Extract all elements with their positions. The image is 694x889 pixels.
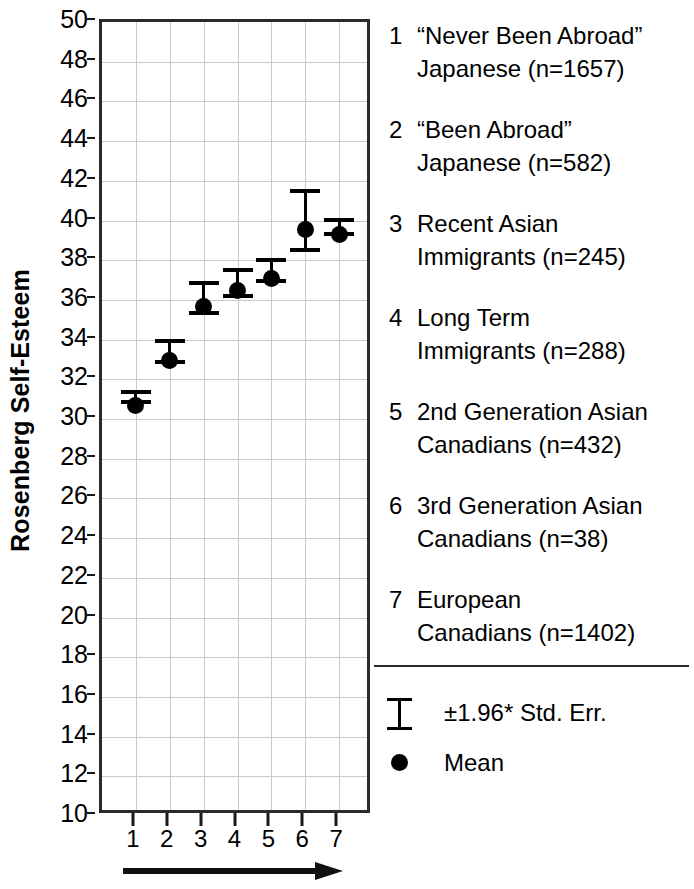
grid-line-horizontal (102, 737, 367, 738)
mean-dot-icon (297, 221, 314, 238)
legend-group-label: Recent Asian Immigrants (n=245) (417, 207, 626, 273)
legend-group-item: 63rd Generation Asian Canadians (n=38) (389, 489, 689, 555)
grid-line-vertical (136, 22, 137, 810)
y-axis-tick-mark (87, 137, 95, 139)
arrow-head (315, 862, 343, 880)
legend-symbol-label: ±1.96* Std. Err. (444, 701, 607, 725)
error-bar-cap-upper (189, 281, 219, 285)
y-axis-tick-mark (87, 574, 95, 576)
grid-line-vertical (271, 22, 272, 810)
mean-dot-icon (374, 740, 444, 786)
chart-figure: Rosenberg Self-Esteem 504846444240383634… (0, 0, 694, 889)
y-axis-tick-label: 16 (60, 681, 88, 706)
legend-group-number: 7 (389, 583, 417, 649)
legend-group-label: Long Term Immigrants (n=288) (417, 301, 626, 367)
x-axis-tick-label: 3 (194, 826, 207, 851)
y-axis-tick-label: 38 (60, 245, 88, 270)
grid-line-horizontal (102, 181, 367, 182)
grid-line-horizontal (102, 657, 367, 658)
y-axis-tick-label: 26 (60, 483, 88, 508)
grid-line-horizontal (102, 379, 367, 380)
y-axis-tick-mark (87, 177, 95, 179)
mean-dot-icon (331, 226, 348, 243)
error-bar-cap-upper (324, 218, 354, 222)
grid-line-vertical (305, 22, 306, 810)
y-axis-tick-mark (87, 97, 95, 99)
y-axis-tick-label: 30 (60, 404, 88, 429)
legend-group-label: 2nd Generation Asian Canadians (n=432) (417, 395, 648, 461)
error-bar-cap-lower (290, 248, 320, 252)
grid-line-horizontal (102, 459, 367, 460)
y-axis-tick-mark (87, 415, 95, 417)
y-axis-tick-mark (87, 733, 95, 735)
legend-symbol-item: Mean (374, 740, 694, 786)
y-axis-tick-mark (87, 58, 95, 60)
plot-area (99, 19, 370, 813)
y-axis-tick-mark (87, 534, 95, 536)
legend-group-item: 52nd Generation Asian Canadians (n=432) (389, 395, 689, 461)
grid-line-horizontal (102, 578, 367, 579)
y-axis-tick-label: 42 (60, 165, 88, 190)
grid-line-horizontal (102, 101, 367, 102)
grid-line-horizontal (102, 62, 367, 63)
x-axis-arrow-icon (123, 862, 343, 880)
y-axis-tick-labels: 5048464442403836343230282624222018161412… (38, 19, 94, 813)
y-axis-tick-label: 12 (60, 761, 88, 786)
y-axis-tick-label: 22 (60, 562, 88, 587)
legend-group-item: 3Recent Asian Immigrants (n=245) (389, 207, 689, 273)
y-axis-tick-label: 18 (60, 642, 88, 667)
y-axis-title-label: Rosenberg Self-Esteem (6, 269, 35, 552)
legend-group-number: 2 (389, 113, 417, 179)
mean-dot-icon (229, 282, 246, 299)
mean-dot-icon (161, 352, 178, 369)
x-axis-tick-label: 1 (126, 826, 139, 851)
error-bar-icon (374, 690, 444, 736)
error-bar-cap-upper (121, 390, 151, 394)
y-axis-tick-label: 40 (60, 205, 88, 230)
legend-group-label: 3rd Generation Asian Canadians (n=38) (417, 489, 642, 555)
grid-line-horizontal (102, 697, 367, 698)
error-bar-cap-upper (155, 339, 185, 343)
grid-line-vertical (238, 22, 239, 810)
y-axis-tick-mark (87, 18, 95, 20)
x-axis-tick-label: 2 (160, 826, 173, 851)
y-axis-tick-label: 20 (60, 602, 88, 627)
grid-line-vertical (204, 22, 205, 810)
arrow-shaft (123, 868, 321, 874)
legend-group-number: 4 (389, 301, 417, 367)
grid-line-horizontal (102, 538, 367, 539)
legend-group-item: 4Long Term Immigrants (n=288) (389, 301, 689, 367)
y-axis-tick-mark (87, 217, 95, 219)
grid-line-horizontal (102, 300, 367, 301)
y-axis-tick-label: 36 (60, 284, 88, 309)
error-bar-cap-upper (223, 268, 253, 272)
legend-group-label: European Canadians (n=1402) (417, 583, 635, 649)
grid-line-horizontal (102, 419, 367, 420)
y-axis-tick-label: 10 (60, 801, 88, 826)
y-axis-tick-mark (87, 455, 95, 457)
legend-divider (374, 665, 689, 667)
y-axis-tick-label: 44 (60, 126, 88, 151)
legend-group-number: 1 (389, 19, 417, 85)
y-axis-tick-label: 48 (60, 46, 88, 71)
y-axis-tick-label: 50 (60, 7, 88, 32)
legend-group-label: “Never Been Abroad” Japanese (n=1657) (417, 19, 642, 85)
y-axis-tick-label: 14 (60, 721, 88, 746)
y-axis-tick-label: 28 (60, 443, 88, 468)
x-axis-tick-label: 7 (329, 826, 342, 851)
x-axis-tick-labels: 1234567 (99, 826, 370, 858)
legend-group-number: 6 (389, 489, 417, 555)
legend-group-number: 3 (389, 207, 417, 273)
error-bar-cap-upper (256, 258, 286, 262)
legend-symbol-label: Mean (444, 751, 504, 775)
y-axis-tick-mark (87, 614, 95, 616)
grid-line-horizontal (102, 260, 367, 261)
y-axis-title: Rosenberg Self-Esteem (0, 0, 40, 820)
grid-line-vertical (170, 22, 171, 810)
grid-line-horizontal (102, 776, 367, 777)
legend-group-item: 1“Never Been Abroad” Japanese (n=1657) (389, 19, 689, 85)
y-axis-tick-mark (87, 653, 95, 655)
legend-group-item: 7European Canadians (n=1402) (389, 583, 689, 649)
legend-group-number: 5 (389, 395, 417, 461)
mean-dot-icon (195, 298, 212, 315)
